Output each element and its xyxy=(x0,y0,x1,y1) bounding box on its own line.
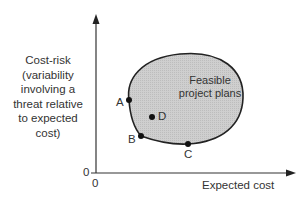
y-label-line: threat relative xyxy=(0,97,96,112)
y-label-line: involving a xyxy=(0,82,96,97)
region-label-line: Feasible xyxy=(170,74,250,87)
point-b xyxy=(138,133,144,139)
y-label-line: cost) xyxy=(0,126,96,141)
x-axis-label: Expected cost xyxy=(202,179,274,191)
y-axis-label: Cost-risk (variability involving a threa… xyxy=(0,53,96,140)
x-origin-label: 0 xyxy=(92,177,98,189)
point-b-label: B xyxy=(128,133,136,145)
point-d-label: D xyxy=(158,110,166,122)
x-axis-arrow-icon xyxy=(286,170,296,177)
y-label-line: to expected xyxy=(0,111,96,126)
y-label-line: (variability xyxy=(0,68,96,83)
region-label-line: project plans xyxy=(170,87,250,100)
point-c-label: C xyxy=(184,148,192,160)
point-a xyxy=(126,97,132,103)
point-c xyxy=(185,141,191,147)
region-label: Feasible project plans xyxy=(170,74,250,100)
point-a-label: A xyxy=(116,96,124,108)
point-d xyxy=(149,114,155,120)
y-origin-label: 0 xyxy=(83,166,89,178)
y-axis-arrow-icon xyxy=(93,14,100,24)
y-label-line: Cost-risk xyxy=(0,53,96,68)
